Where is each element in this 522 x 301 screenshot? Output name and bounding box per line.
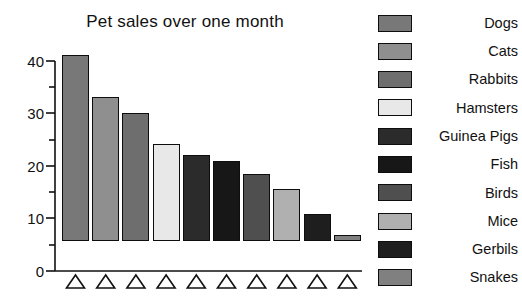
bar-rabbits (122, 113, 149, 241)
pet-sales-bar-chart: Pet sales over one month 40 30 20 10 (0, 0, 522, 301)
bar-snakes (334, 235, 361, 241)
legend-item-dogs[interactable]: Dogs (378, 12, 522, 34)
legend-item-hamsters[interactable]: Hamsters (378, 97, 522, 119)
bar-fish (213, 161, 240, 241)
bars-group (0, 0, 370, 271)
legend-swatch-icon (378, 71, 412, 88)
legend-swatch-icon (378, 43, 412, 60)
bar-hamsters (153, 144, 180, 241)
legend-item-label: Gerbils (412, 242, 522, 257)
legend-swatch-icon (378, 128, 412, 145)
legend-swatch-icon (378, 15, 412, 32)
legend-item-label: Fish (412, 157, 522, 172)
legend-item-label: Snakes (412, 270, 522, 285)
legend-swatch-icon (378, 269, 412, 286)
bar-guinea-pigs (183, 155, 210, 241)
bar-birds (243, 174, 270, 241)
legend-item-label: Hamsters (412, 101, 522, 116)
legend-item-guinea-pigs[interactable]: Guinea Pigs (378, 125, 522, 147)
chart-legend: DogsCatsRabbitsHamstersGuinea PigsFishBi… (378, 0, 522, 301)
legend-item-label: Mice (412, 214, 522, 229)
legend-item-label: Cats (412, 44, 522, 59)
bar-mice (273, 189, 300, 242)
legend-item-cats[interactable]: Cats (378, 40, 522, 62)
legend-item-snakes[interactable]: Snakes (378, 267, 522, 289)
legend-item-label: Guinea Pigs (412, 129, 522, 144)
legend-swatch-icon (378, 184, 412, 201)
plot-area: Pet sales over one month 40 30 20 10 (0, 0, 370, 301)
legend-swatch-icon (378, 213, 412, 230)
legend-swatch-icon (378, 156, 412, 173)
bar-dogs (62, 55, 89, 241)
bars-layer (0, 0, 370, 301)
legend-item-label: Birds (412, 186, 522, 201)
legend-item-mice[interactable]: Mice (378, 210, 522, 232)
legend-item-label: Dogs (412, 16, 522, 31)
legend-swatch-icon (378, 99, 412, 116)
legend-swatch-icon (378, 241, 412, 258)
legend-item-fish[interactable]: Fish (378, 154, 522, 176)
legend-item-birds[interactable]: Birds (378, 182, 522, 204)
bar-cats (92, 97, 119, 241)
legend-item-label: Rabbits (412, 72, 522, 87)
legend-item-gerbils[interactable]: Gerbils (378, 238, 522, 260)
bar-gerbils (304, 214, 331, 241)
legend-item-rabbits[interactable]: Rabbits (378, 69, 522, 91)
